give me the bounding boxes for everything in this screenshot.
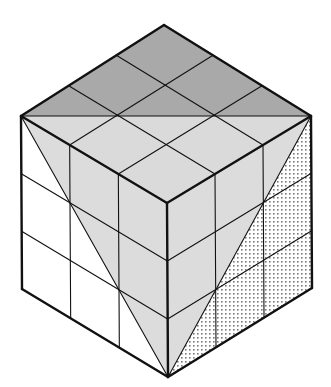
cube-diagram [0,0,331,387]
cube-edge [21,116,22,289]
cube-edge [311,116,312,288]
top-face-back-triangle [21,25,311,116]
cube-svg [0,0,331,387]
cube-edge [167,203,168,377]
